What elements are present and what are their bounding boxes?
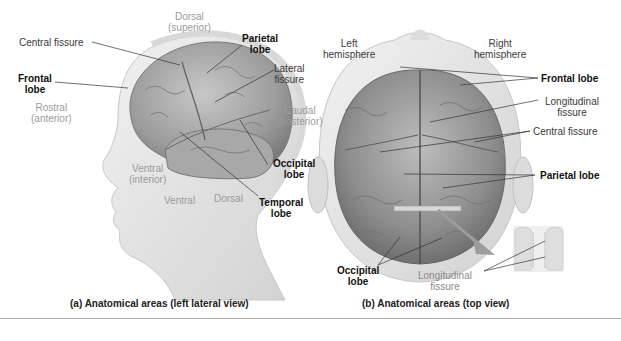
direction-text: (anterior) <box>31 113 72 124</box>
direction-text: Dorsal <box>168 11 211 22</box>
label-central-fissure-a: Central fissure <box>19 37 83 48</box>
label-occipital-lobe-b: Occipital lobe <box>337 265 379 287</box>
label-text: hemisphere <box>323 49 375 60</box>
label-text: Occipital <box>273 158 315 169</box>
label-text: lobe <box>18 84 52 95</box>
label-lateral-fissure: Lateral fissure <box>274 63 305 85</box>
label-text: Occipital <box>337 265 379 276</box>
caption-panel-b: (b) Anatomical areas (top view) <box>362 298 509 309</box>
direction-ventral: Ventral <box>164 195 195 206</box>
label-text: lobe <box>337 276 379 287</box>
label-text: lobe <box>273 169 315 180</box>
label-temporal-lobe: Temporal lobe <box>259 197 303 219</box>
direction-text: (superior) <box>168 22 211 33</box>
label-longitudinal-fissure-inset: Longitudinal fissure <box>418 270 472 292</box>
direction-text: Ventral <box>129 163 166 174</box>
label-text: Right <box>474 38 526 49</box>
label-occipital-lobe-a: Occipital lobe <box>273 158 315 180</box>
direction-text: Rostral <box>31 102 72 113</box>
label-text: Temporal <box>259 197 303 208</box>
direction-text: (posterior) <box>277 116 323 127</box>
label-text: Longitudinal <box>418 270 472 281</box>
label-text: Longitudinal <box>545 96 599 107</box>
fissure-inset <box>513 226 563 272</box>
label-text: fissure <box>418 281 472 292</box>
label-central-fissure-b: Central fissure <box>533 126 597 137</box>
direction-dorsal: Dorsal <box>214 193 243 204</box>
direction-rostral-anterior: Rostral (anterior) <box>31 102 72 124</box>
label-parietal-lobe-b: Parietal lobe <box>540 170 599 181</box>
label-text: Left <box>323 38 375 49</box>
brain-top <box>335 70 506 264</box>
label-text: fissure <box>274 74 305 85</box>
bottom-divider <box>0 318 621 319</box>
label-text: Frontal <box>18 73 52 84</box>
label-right-hemisphere: Right hemisphere <box>474 38 526 60</box>
label-text: Parietal <box>242 33 278 44</box>
label-frontal-lobe-a: Frontal lobe <box>18 73 52 95</box>
label-left-hemisphere: Left hemisphere <box>323 38 375 60</box>
label-parietal-lobe-a: Parietal lobe <box>242 33 278 55</box>
label-text: hemisphere <box>474 49 526 60</box>
direction-text: Caudal <box>277 105 323 116</box>
label-text: lobe <box>259 208 303 219</box>
direction-ventral-interior: Ventral (interior) <box>129 163 166 185</box>
direction-caudal-posterior: Caudal (posterior) <box>277 105 323 127</box>
direction-dorsal-superior: Dorsal (superior) <box>168 11 211 33</box>
direction-text: (interior) <box>129 174 166 185</box>
label-text: lobe <box>242 44 278 55</box>
label-text: Lateral <box>274 63 305 74</box>
label-text: fissure <box>545 107 599 118</box>
label-longitudinal-fissure-b: Longitudinal fissure <box>545 96 599 118</box>
caption-panel-a: (a) Anatomical areas (left lateral view) <box>70 298 249 309</box>
label-frontal-lobe-b: Frontal lobe <box>541 73 598 84</box>
